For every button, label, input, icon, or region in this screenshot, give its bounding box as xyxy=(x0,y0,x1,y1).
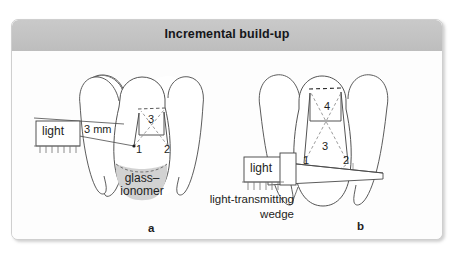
figure-panel-frame: Incremental build-up xyxy=(11,19,443,240)
panel-b-increment-1: 1 xyxy=(303,155,309,167)
panel-b-caption: b xyxy=(357,220,364,232)
wedge-label-line1: light-transmitting xyxy=(194,193,294,205)
panel-a-increment-1: 1 xyxy=(136,144,142,156)
light-unit-hatching-a xyxy=(34,146,80,153)
figure-title-band: Incremental build-up xyxy=(12,20,442,52)
panel-b-increment-3: 3 xyxy=(322,141,328,153)
wedge-label-line2: wedge xyxy=(194,208,294,220)
panel-a-light-label: light xyxy=(42,125,64,138)
light-unit-hatching-b xyxy=(242,182,284,190)
tooth-b-right-neighbor xyxy=(348,75,388,205)
panel-b-light-label: light xyxy=(250,162,272,175)
panel-a-increment-3: 3 xyxy=(148,114,154,126)
panel-a-increment-2: 2 xyxy=(164,144,170,156)
panel-a-depth-label: 3 mm xyxy=(84,124,112,136)
panel-b-increment-2: 2 xyxy=(343,155,349,167)
material-label-line1: glass– xyxy=(116,172,168,185)
figure-root: Incremental build-up xyxy=(0,0,456,259)
light-unit-tip-b xyxy=(280,153,296,185)
figure-title: Incremental build-up xyxy=(12,27,442,41)
panel-b-artwork xyxy=(242,75,388,206)
panel-b-increment-4: 4 xyxy=(324,101,330,113)
illustration-canvas: light 3 mm 1 2 3 glass– ionomer a light … xyxy=(12,51,442,239)
panel-a-caption: a xyxy=(148,222,154,234)
material-label-line2: ionomer xyxy=(116,185,168,198)
